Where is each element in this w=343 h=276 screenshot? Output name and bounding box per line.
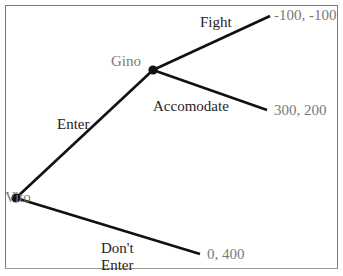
payoff-fight: -100, -100 bbox=[274, 7, 337, 24]
action-label-enter: Enter bbox=[57, 116, 89, 133]
action-label-accommodate: Accomodate bbox=[153, 98, 229, 115]
payoff-dont-enter: 0, 400 bbox=[207, 246, 245, 263]
payoff-accommodate: 300, 200 bbox=[274, 102, 327, 119]
action-label-dont-enter-line2: Enter bbox=[101, 257, 133, 274]
edge-enter bbox=[16, 70, 153, 198]
action-label-fight: Fight bbox=[200, 14, 232, 31]
action-label-dont-enter-line1: Don't bbox=[101, 240, 134, 257]
player-label-vito: Vito bbox=[5, 189, 31, 206]
node-gino bbox=[148, 65, 157, 74]
player-label-gino: Gino bbox=[111, 53, 141, 70]
game-tree bbox=[0, 0, 343, 276]
